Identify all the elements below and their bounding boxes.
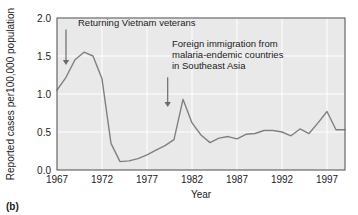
x-tick-label: 1972 <box>91 174 114 185</box>
y-tick-label: 2.0 <box>37 13 51 24</box>
y-tick-label: 1.0 <box>37 89 51 100</box>
y-axis-title: Reported cases per100,000 population <box>5 8 16 180</box>
annotation-foreign-immigration-line-3: in Southeast Asia <box>172 60 246 71</box>
panel-caption: (b) <box>6 201 19 212</box>
x-tick-label: 1967 <box>46 174 69 185</box>
x-tick-label: 1992 <box>271 174 294 185</box>
x-tick-label: 1997 <box>316 174 339 185</box>
annotation-foreign-immigration-line-2: malaria-endemic countries <box>172 49 284 60</box>
y-tick-label: 0.5 <box>37 127 51 138</box>
annotation-foreign-immigration-line-1: Foreign immigration from <box>172 38 278 49</box>
x-tick-label: 1987 <box>226 174 249 185</box>
y-tick-label: 1.5 <box>37 51 51 62</box>
annotation-vietnam-veterans-line-1: Returning Vietnam veterans <box>78 17 196 28</box>
x-tick-label: 1982 <box>181 174 204 185</box>
x-axis-title: Year <box>191 189 212 200</box>
malaria-cases-line-chart: 0.00.51.01.52.0 196719721977198219871992… <box>0 0 358 215</box>
figure-panel: 0.00.51.01.52.0 196719721977198219871992… <box>0 0 358 215</box>
x-tick-label: 1977 <box>136 174 159 185</box>
